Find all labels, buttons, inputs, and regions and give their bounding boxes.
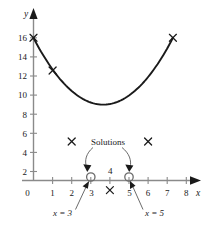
- root-right-leader-line: [133, 187, 143, 210]
- solutions-label: Solutions: [91, 137, 126, 147]
- data-point-marker-2-3: [68, 138, 75, 145]
- y-tick-label-8: 8: [23, 110, 28, 120]
- y-tick-label-16: 16: [18, 33, 28, 43]
- data-point-marker-6-3: [145, 138, 152, 145]
- y-tick-label-4: 4: [23, 148, 28, 158]
- x-axis-label: x: [195, 188, 201, 198]
- y-tick-labels-group: 2 4 6 8 10 12 14 16: [18, 33, 28, 177]
- x-tick-label-1: 1: [50, 188, 55, 198]
- root-right-arrowhead: [130, 181, 136, 189]
- x-tick-label-6: 6: [146, 188, 151, 198]
- origin-label: 0: [25, 188, 30, 198]
- data-point-marker-4-minus1: [106, 187, 113, 194]
- axes-group: [22, 8, 201, 185]
- graph-figure: 2 4 6 8 10 12 14 16 0 1 2 3 4: [0, 0, 209, 226]
- parabola-curve: [34, 38, 173, 105]
- root-left-leader-line: [76, 187, 87, 210]
- x-tick-label-4: 4: [108, 166, 113, 176]
- solutions-arrow-left-head: [83, 164, 91, 172]
- root-left-arrowhead: [83, 181, 90, 189]
- solutions-arrow-right-head: [125, 165, 133, 172]
- x-tick-label-5: 5: [127, 188, 132, 198]
- root-right-label: x = 5: [144, 208, 165, 218]
- x-tick-label-8: 8: [184, 188, 189, 198]
- solutions-arrow-left-path: [86, 148, 93, 168]
- parabola-chart: 2 4 6 8 10 12 14 16 0 1 2 3 4: [0, 0, 209, 226]
- x-tick-label-2: 2: [69, 188, 74, 198]
- root-left-label: x = 3: [52, 208, 73, 218]
- x-axis-arrowhead: [190, 176, 201, 184]
- root-callout-arrows-group: [76, 181, 144, 210]
- y-tick-label-12: 12: [18, 71, 27, 81]
- solutions-arrow-right-path: [122, 148, 131, 168]
- x-tick-label-3: 3: [89, 188, 94, 198]
- y-tick-label-10: 10: [18, 90, 28, 100]
- y-tick-label-6: 6: [23, 129, 28, 139]
- y-axis-arrowhead: [29, 8, 37, 19]
- data-point-marker-8-15: [169, 34, 176, 41]
- y-tick-label-2: 2: [23, 167, 28, 177]
- x-tick-label-7: 7: [165, 188, 170, 198]
- y-axis-label: y: [23, 9, 29, 19]
- data-point-markers: [30, 34, 176, 193]
- y-tick-label-14: 14: [18, 52, 28, 62]
